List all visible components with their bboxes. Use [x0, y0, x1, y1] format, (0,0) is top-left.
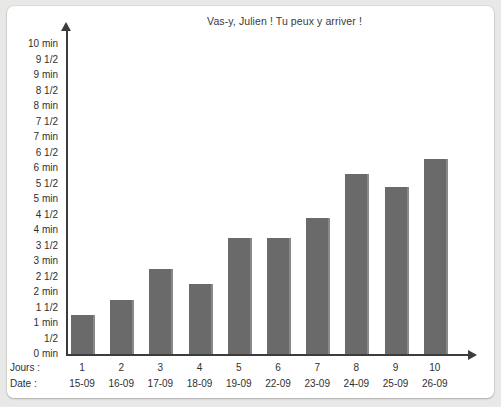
bar [189, 284, 211, 354]
x-axis-day-label: 1 [62, 362, 102, 373]
y-axis-tick-label: 0 min [0, 349, 58, 359]
y-axis-tick-label: 4 min [0, 225, 58, 235]
y-axis-tick-label: 6 1/2 [0, 148, 58, 158]
y-axis-tick-label: 6 min [0, 163, 58, 173]
y-axis-tick-label: 7 1/2 [0, 117, 58, 127]
y-axis-tick-label: 10 min [0, 39, 58, 49]
y-axis-arrow-icon [61, 22, 71, 31]
y-axis-tick-label: 1 min [0, 318, 58, 328]
bar [228, 238, 250, 354]
y-axis-tick-label: 8 min [0, 101, 58, 111]
y-axis-tick-label: 9 1/2 [0, 55, 58, 65]
y-axis-tick-label: 1/2 [0, 334, 58, 344]
y-axis-tick-label: 2 min [0, 287, 58, 297]
x-axis-day-label: 8 [336, 362, 376, 373]
chart-page: Vas-y, Julien ! Tu peux y arriver ! 10 m… [0, 0, 501, 407]
bar [149, 269, 171, 354]
x-axis-arrow-icon [468, 350, 477, 360]
bar [306, 218, 328, 354]
y-axis-tick-label: 4 1/2 [0, 210, 58, 220]
row-header-dates: Date : [10, 378, 66, 389]
y-axis-tick-label: 9 min [0, 70, 58, 80]
y-axis-tick-label: 8 1/2 [0, 86, 58, 96]
bar [424, 159, 446, 354]
chart-title: Vas-y, Julien ! Tu peux y arriver ! [0, 15, 501, 27]
x-axis-day-label: 7 [297, 362, 337, 373]
y-axis-tick-label: 5 1/2 [0, 179, 58, 189]
y-axis-tick-label: 3 min [0, 256, 58, 266]
bar [385, 187, 407, 354]
bar [71, 315, 93, 354]
x-axis-day-label: 5 [219, 362, 259, 373]
x-axis-day-label: 6 [258, 362, 298, 373]
bar-chart: Vas-y, Julien ! Tu peux y arriver ! 10 m… [0, 0, 501, 407]
x-axis-day-label: 2 [101, 362, 141, 373]
x-axis-date-label: 26-09 [412, 378, 458, 389]
x-axis-day-label: 10 [415, 362, 455, 373]
y-axis-tick-label: 5 min [0, 194, 58, 204]
y-axis-line [66, 30, 68, 355]
x-axis-day-label: 9 [376, 362, 416, 373]
y-axis-tick-label: 1 1/2 [0, 303, 58, 313]
bar [345, 174, 367, 354]
y-axis-tick-label: 3 1/2 [0, 241, 58, 251]
row-header-days: Jours : [10, 362, 66, 373]
x-axis-day-label: 4 [180, 362, 220, 373]
x-axis-line [66, 354, 470, 356]
y-axis-tick-label: 2 1/2 [0, 272, 58, 282]
y-axis-tick-label: 7 min [0, 132, 58, 142]
x-axis-day-label: 3 [140, 362, 180, 373]
bar [267, 238, 289, 354]
bar [110, 300, 132, 354]
